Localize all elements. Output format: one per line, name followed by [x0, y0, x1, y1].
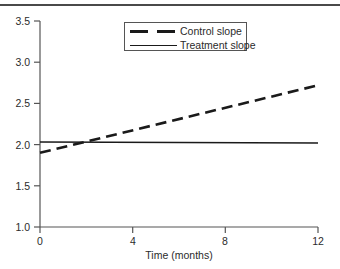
series-line-treatment-slope	[40, 142, 318, 143]
legend-item-control-slope: Control slope	[125, 24, 248, 38]
legend-label-treatment-slope: Treatment slope	[180, 39, 255, 52]
y-tick-label-2.5: 2.5	[2, 98, 30, 109]
x-tick-label-8: 8	[213, 236, 237, 247]
legend-label-control-slope: Control slope	[180, 25, 242, 38]
x-tick-label-0: 0	[28, 236, 52, 247]
x-axis-ticks	[40, 227, 318, 233]
y-tick-label-2.0: 2.0	[2, 140, 30, 151]
y-tick-label-3.5: 3.5	[2, 16, 30, 27]
y-tick-label-3.0: 3.0	[2, 57, 30, 68]
legend-swatch-solid-line	[130, 45, 177, 47]
chart-legend: Control slope Treatment slope	[124, 22, 247, 51]
x-tick-label-4: 4	[121, 236, 145, 247]
legend-item-treatment-slope: Treatment slope	[125, 38, 248, 52]
legend-swatch-dashed-line	[130, 30, 177, 33]
chart-figure: 3.5 3.0 2.5 2.0 1.5 1.0 0 4 8 12 Time (m…	[0, 0, 340, 269]
x-tick-label-12: 12	[306, 236, 330, 247]
y-tick-label-1.0: 1.0	[2, 222, 30, 233]
y-tick-label-1.5: 1.5	[2, 181, 30, 192]
y-axis-ticks	[34, 21, 40, 227]
x-axis-title: Time (months)	[40, 250, 318, 261]
